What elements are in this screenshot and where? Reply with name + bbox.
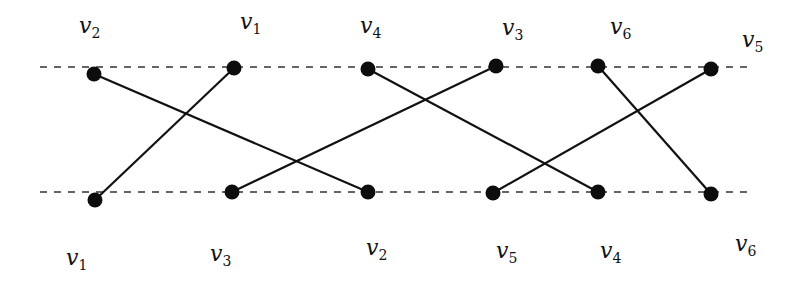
edge-top-v6-to-bottom-v6 <box>598 66 711 194</box>
bottom-node-v2 <box>361 185 376 200</box>
edge-top-v5-to-bottom-v5 <box>493 69 711 193</box>
edge-top-v3-to-bottom-v3 <box>232 66 496 192</box>
dashed-guide-lines <box>40 67 752 192</box>
bottom-node-v6 <box>704 187 719 202</box>
bottom-label-v5: v5 <box>496 238 517 266</box>
edge-top-v1-to-bottom-v1 <box>95 68 234 200</box>
bottom-node-v3 <box>225 185 240 200</box>
top-node-v2 <box>87 67 102 82</box>
top-label-v4: v4 <box>360 13 381 41</box>
node-labels: v2v1v4v3v6v5v1v3v2v5v4v6 <box>66 9 763 273</box>
top-node-v6 <box>591 59 606 74</box>
top-label-v3: v3 <box>502 15 523 43</box>
edge-top-v2-to-bottom-v2 <box>94 74 368 192</box>
edge-top-v4-to-bottom-v4 <box>368 69 598 192</box>
bottom-node-v4 <box>591 185 606 200</box>
top-label-v2: v2 <box>79 13 100 41</box>
bottom-node-v1 <box>88 193 103 208</box>
bottom-label-v2: v2 <box>366 235 387 263</box>
bottom-node-v5 <box>486 186 501 201</box>
permutation-diagram: v2v1v4v3v6v5v1v3v2v5v4v6 <box>0 0 800 289</box>
nodes <box>87 59 719 208</box>
top-label-v6: v6 <box>610 14 631 42</box>
top-node-v4 <box>361 62 376 77</box>
bottom-label-v1: v1 <box>66 245 87 273</box>
top-node-v3 <box>489 59 504 74</box>
bottom-label-v4: v4 <box>600 238 621 266</box>
top-label-v5: v5 <box>742 27 763 55</box>
bottom-label-v3: v3 <box>210 241 231 269</box>
top-node-v1 <box>227 61 242 76</box>
edges <box>94 66 711 200</box>
bottom-label-v6: v6 <box>735 231 756 259</box>
top-label-v1: v1 <box>240 9 261 37</box>
top-node-v5 <box>704 62 719 77</box>
